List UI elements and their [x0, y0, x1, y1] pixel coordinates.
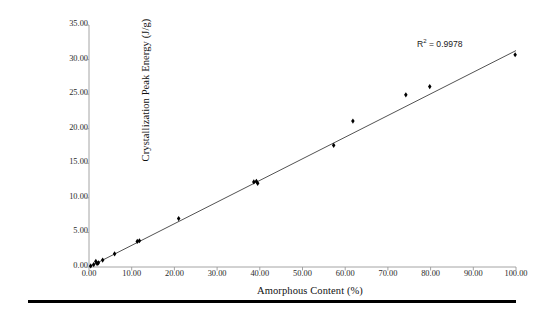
r-squared-exponent: 2	[423, 38, 426, 44]
data-point-marker	[351, 119, 355, 124]
data-point-marker	[101, 257, 105, 262]
chart-figure: Crystallization Peak Energy (J/g) 0.005.…	[0, 0, 544, 312]
data-point-marker	[89, 263, 93, 268]
bottom-horizontal-rule	[28, 300, 516, 303]
data-point-marker	[513, 52, 517, 57]
data-series	[89, 52, 517, 268]
data-point-marker	[428, 84, 432, 89]
data-point-marker	[113, 251, 117, 256]
r-squared-value: = 0.9978	[429, 39, 463, 49]
trendline	[89, 51, 516, 267]
data-point-marker	[177, 216, 181, 221]
data-point-marker	[404, 92, 408, 97]
data-point-marker	[92, 262, 96, 267]
r-squared-annotation: R2 = 0.9978	[417, 38, 463, 49]
